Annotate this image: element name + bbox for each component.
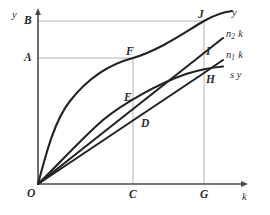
level-label-G: G xyxy=(200,189,208,201)
level-label-A: A xyxy=(24,52,32,64)
level-label-B: B xyxy=(24,15,32,27)
growth-model-diagram: y k O B A C G J F I E H D y n2 k n1 k s … xyxy=(0,0,270,215)
y-axis-arrow xyxy=(35,8,41,15)
curve-label-n1k: n1 k xyxy=(226,50,243,61)
curve-label-n1k-var: k xyxy=(238,49,243,60)
origin-label: O xyxy=(27,188,35,200)
line-n2k xyxy=(38,38,223,184)
curve-label-n2k-subscript: 2 xyxy=(231,32,235,41)
curve-label-n2k: n2 k xyxy=(226,29,243,40)
curves xyxy=(38,11,232,184)
curve-label-n1k-subscript: 1 xyxy=(231,53,235,62)
point-label-I: I xyxy=(206,46,210,58)
point-label-E: E xyxy=(124,92,132,104)
x-axis-arrow xyxy=(241,181,248,187)
curve-label-y: y xyxy=(232,8,237,19)
curve-label-sy: s y xyxy=(230,70,241,81)
point-label-H: H xyxy=(206,74,215,86)
point-label-F: F xyxy=(126,46,134,58)
line-n1k xyxy=(38,60,223,184)
level-label-C: C xyxy=(129,189,137,201)
curve-label-n2k-var: k xyxy=(238,28,243,39)
point-label-D: D xyxy=(141,118,149,130)
y-axis-label: y xyxy=(12,10,17,21)
x-axis-label: k xyxy=(242,192,247,203)
point-label-J: J xyxy=(198,9,204,21)
